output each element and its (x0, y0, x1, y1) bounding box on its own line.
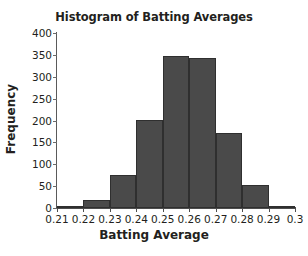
y-tick-label: 150 (32, 137, 52, 148)
histogram-figure: Histogram of Batting Averages Frequency … (0, 0, 308, 256)
x-tick-mark (269, 208, 270, 212)
histogram-bar (242, 185, 268, 208)
y-tick-mark (53, 121, 57, 122)
histogram-bar (136, 120, 162, 208)
y-tick-label: 400 (32, 28, 52, 39)
histogram-bar (269, 206, 295, 208)
y-tick-label: 250 (32, 93, 52, 104)
y-tick-label: 100 (32, 159, 52, 170)
histogram-bar (163, 56, 189, 208)
histogram-bar (83, 200, 109, 208)
x-tick-label: 0.27 (204, 214, 227, 225)
x-tick-mark (57, 208, 58, 212)
y-tick-label: 300 (32, 72, 52, 83)
y-tick-label: 50 (39, 181, 52, 192)
y-axis-label-container: Frequency (2, 28, 20, 210)
y-tick-label: 350 (32, 50, 52, 61)
histogram-bar (110, 175, 136, 208)
y-tick-mark (53, 77, 57, 78)
x-tick-label: 0.25 (151, 214, 174, 225)
x-tick-label: 0.22 (72, 214, 95, 225)
y-tick-mark (53, 164, 57, 165)
x-tick-label: 0.28 (230, 214, 253, 225)
x-axis-label: Batting Average (0, 228, 308, 242)
x-tick-mark (163, 208, 164, 212)
histogram-bar (57, 206, 83, 208)
histogram-bar (189, 58, 215, 208)
y-tick-mark (53, 186, 57, 187)
plot-area: 050100150200250300350400 0.210.220.230.2… (57, 33, 295, 208)
x-tick-mark (136, 208, 137, 212)
x-tick-label: 0.29 (257, 214, 280, 225)
histogram-bar (216, 133, 242, 208)
y-tick-label: 0 (45, 203, 52, 214)
x-tick-mark (295, 208, 296, 212)
x-tick-label: 0.23 (98, 214, 121, 225)
y-axis-label: Frequency (4, 84, 18, 154)
y-tick-mark (53, 99, 57, 100)
y-tick-label: 200 (32, 115, 52, 126)
y-tick-mark (53, 33, 57, 34)
y-tick-mark (53, 55, 57, 56)
x-tick-mark (110, 208, 111, 212)
x-tick-label: 0.26 (178, 214, 201, 225)
y-tick-mark (53, 142, 57, 143)
x-tick-mark (189, 208, 190, 212)
chart-title: Histogram of Batting Averages (0, 10, 308, 24)
x-tick-mark (242, 208, 243, 212)
x-tick-mark (83, 208, 84, 212)
x-tick-mark (216, 208, 217, 212)
x-tick-label: 0.24 (125, 214, 148, 225)
x-tick-label: 0.3 (287, 214, 304, 225)
x-tick-label: 0.21 (45, 214, 68, 225)
